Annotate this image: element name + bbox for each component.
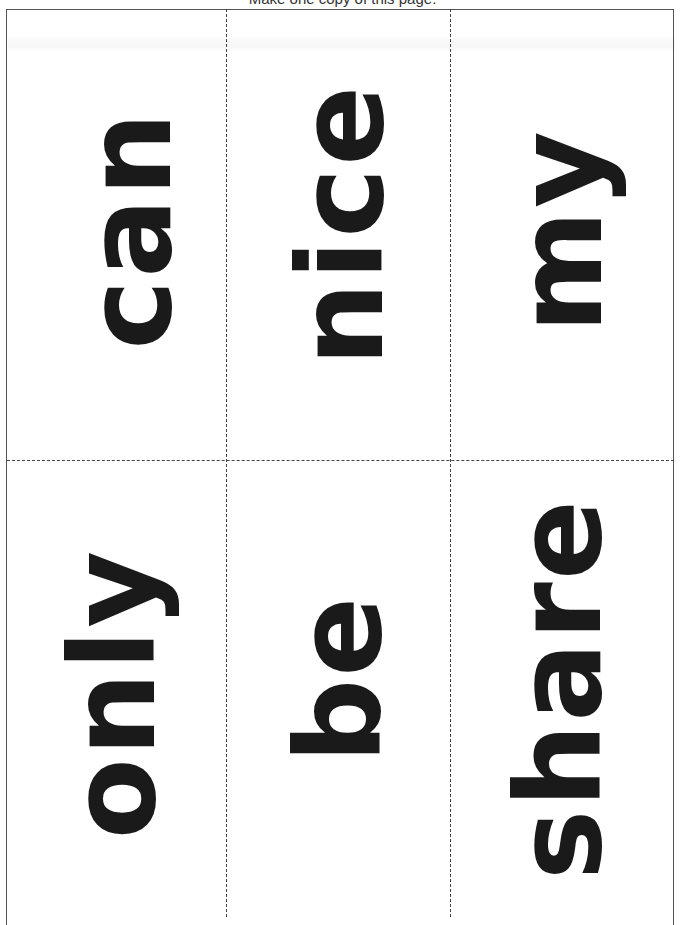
sight-word: only xyxy=(55,549,173,839)
instruction-text: Make one copy of this page. xyxy=(0,0,685,6)
flashcard-can: can xyxy=(30,40,226,460)
flashcard-nice: nice xyxy=(227,40,450,460)
sight-word: be xyxy=(281,595,399,764)
flashcard-my: my xyxy=(451,40,674,460)
sight-word: share xyxy=(501,498,619,880)
sight-word: my xyxy=(501,129,619,333)
sight-word: nice xyxy=(283,84,401,366)
sight-word: can xyxy=(70,110,188,350)
flashcard-share: share xyxy=(451,461,674,917)
flashcard-only: only xyxy=(7,461,226,917)
flashcard-be: be xyxy=(227,461,450,917)
